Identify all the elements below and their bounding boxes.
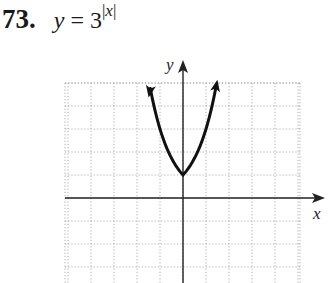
x-axis	[65, 193, 325, 203]
x-axis-label: x	[312, 204, 321, 223]
function-graph: x y	[0, 0, 336, 283]
y-axis-label: y	[164, 55, 174, 74]
